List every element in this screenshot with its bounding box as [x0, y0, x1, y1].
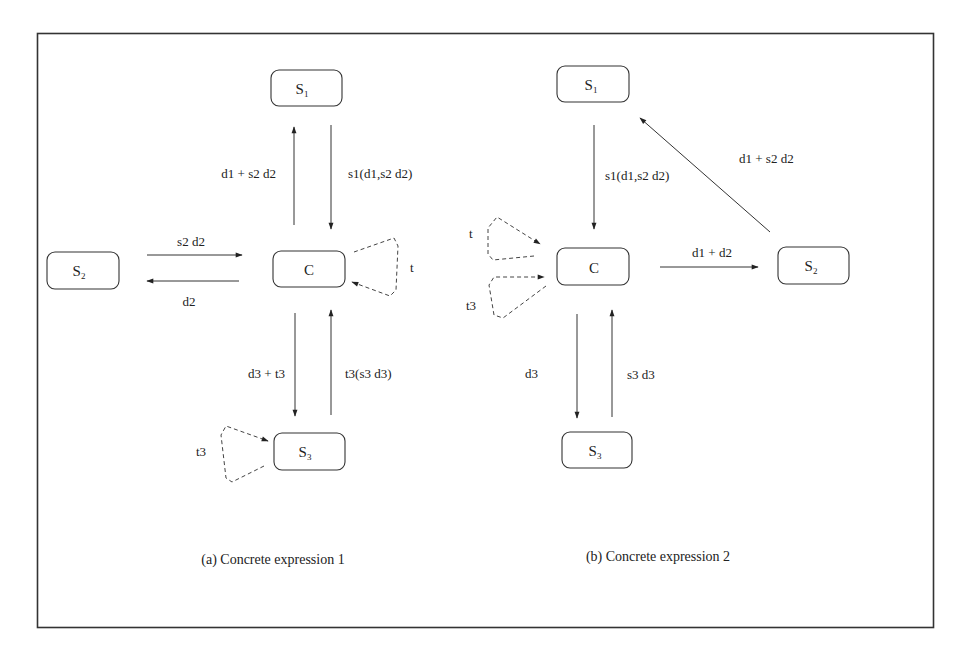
caption-a: (a) Concrete expression 1	[201, 552, 344, 568]
loop-label-b-c-t3: t3	[466, 298, 476, 313]
node-label: S	[589, 443, 597, 459]
edge-label-a-s1-to-c: s1(d1,s2 d2)	[348, 166, 412, 181]
node-label: S	[299, 444, 307, 460]
node-a-s1: S1	[271, 70, 342, 106]
loop-a-s3-t3	[221, 426, 268, 482]
node-b-s3: S3	[562, 432, 632, 468]
node-subscript: 1	[593, 85, 598, 95]
edge-label-b-s3-to-c: s3 d3	[627, 367, 655, 382]
edge-label-b-c-to-s2: d1 + d2	[692, 245, 732, 260]
node-b-s1: S1	[557, 66, 629, 102]
caption-b: (b) Concrete expression 2	[586, 549, 730, 565]
node-b-c: C	[557, 248, 629, 285]
node-subscript: 3	[597, 451, 602, 461]
loop-b-c-t	[488, 217, 540, 260]
node-label: C	[589, 260, 599, 276]
loop-b-c-t3	[489, 277, 546, 318]
edge-label-a-c-to-s1: d1 + s2 d2	[221, 166, 276, 181]
node-box	[562, 432, 632, 468]
node-label: C	[304, 262, 314, 278]
diagram-b: S1 C S2 S3 s1(d1,s2 d2) d1 + s2 d2 d1 + …	[466, 66, 849, 565]
node-a-s2: S2	[47, 252, 119, 289]
diagram-a: S1 C S2 S3 d1 + s2 d2 s1(d1,s2 d2) s2 d2…	[47, 70, 414, 568]
edge-label-a-c-to-s2: d2	[183, 294, 196, 309]
node-label: S	[73, 263, 81, 279]
edge-label-b-s1-to-c: s1(d1,s2 d2)	[605, 168, 669, 183]
node-box	[271, 70, 342, 106]
node-label: S	[585, 77, 593, 93]
node-label: S	[296, 81, 304, 97]
figure-frame	[38, 34, 934, 628]
node-subscript: 2	[813, 266, 818, 276]
node-subscript: 2	[81, 271, 86, 281]
node-box	[557, 66, 629, 102]
node-label: S	[805, 258, 813, 274]
figure-canvas: S1 C S2 S3 d1 + s2 d2 s1(d1,s2 d2) s2 d2…	[0, 0, 959, 667]
loop-label-b-c-t: t	[469, 226, 473, 241]
loop-label-a-s3: t3	[196, 444, 206, 459]
node-a-s3: S3	[274, 433, 345, 470]
edge-label-a-s3-to-c: t3(s3 d3)	[345, 366, 392, 381]
loop-a-c-t	[352, 238, 398, 296]
loop-label-a-c: t	[410, 260, 414, 275]
node-a-c: C	[273, 251, 345, 287]
node-subscript: 1	[304, 89, 309, 99]
node-subscript: 3	[307, 452, 312, 462]
edge-label-b-c-to-s3: d3	[525, 366, 538, 381]
edge-label-a-s2-to-c: s2 d2	[177, 234, 205, 249]
edge-label-b-s2-to-s1: d1 + s2 d2	[739, 151, 794, 166]
node-b-s2: S2	[778, 247, 849, 284]
edge-label-a-c-to-s3: d3 + t3	[248, 366, 285, 381]
